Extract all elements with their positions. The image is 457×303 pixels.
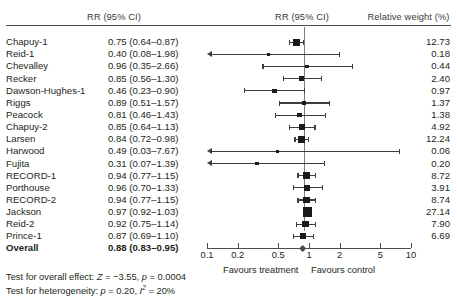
x-axis-tick-label: 1 — [294, 250, 324, 260]
header-rr-ci-text: RR (95% CI) — [0, 12, 228, 22]
study-name: Reid-1 — [6, 48, 34, 60]
study-relative-weight: 8.72 — [360, 170, 450, 182]
ci-cap-upper — [315, 222, 316, 227]
ci-cap-lower — [279, 101, 280, 106]
study-relative-weight: 2.40 — [360, 73, 450, 85]
favours-treatment-label: Favours treatment — [223, 265, 298, 275]
study-relative-weight: 27.14 — [360, 206, 450, 218]
study-rr-ci: 0.84 (0.72–0.98) — [108, 133, 178, 145]
test-overall-effect: Test for overall effect: Z = −3.55, p = … — [6, 272, 186, 282]
ci-cap-upper — [313, 234, 314, 239]
ci-cap-lower — [297, 173, 298, 178]
ci-cap-lower — [283, 76, 284, 81]
study-name: Reid-2 — [6, 218, 34, 230]
ci-cap-upper — [325, 113, 326, 118]
study-effect-marker — [299, 76, 304, 81]
study-effect-marker — [304, 185, 309, 190]
study-name: Harwood — [6, 145, 44, 157]
study-relative-weight: 0.97 — [360, 85, 450, 97]
ci-cap-upper — [324, 161, 325, 166]
ci-cap-upper — [303, 40, 304, 45]
study-relative-weight: 0.44 — [360, 60, 450, 72]
table-row: Chapuy-10.75 (0.64–0.87)12.73 — [0, 36, 457, 48]
table-row: Riggs0.89 (0.51–1.57)1.37 — [0, 97, 457, 109]
confidence-interval-line — [212, 54, 339, 55]
confidence-interval-line — [212, 163, 324, 164]
heterogeneity-prefix: Test for heterogeneity: — [6, 286, 101, 296]
ci-cap-lower — [275, 113, 276, 118]
ci-cap-upper — [321, 76, 322, 81]
ci-left-arrow-icon — [207, 148, 212, 154]
test-heterogeneity: Test for heterogeneity: p = 0.20, I2 = 2… — [6, 284, 175, 296]
x-axis-tick — [380, 243, 381, 248]
study-rr-ci: 0.96 (0.70–1.33) — [108, 182, 178, 194]
table-row: Porthouse0.96 (0.70–1.33)3.91 — [0, 182, 457, 194]
ci-cap-lower — [293, 234, 294, 239]
ci-cap-lower — [289, 40, 290, 45]
table-row: Chapuy-20.85 (0.64–1.13)4.92 — [0, 121, 457, 133]
study-name: Chapuy-2 — [6, 121, 48, 133]
ci-cap-upper — [399, 149, 400, 154]
confidence-interval-line — [212, 151, 399, 152]
study-relative-weight: 0.20 — [360, 158, 450, 170]
study-name: Larsen — [6, 133, 35, 145]
table-row: RECORD-10.94 (0.77–1.15)8.72 — [0, 170, 457, 182]
study-relative-weight: 6.69 — [360, 230, 450, 242]
ci-cap-lower — [262, 64, 263, 69]
study-relative-weight: 12.24 — [360, 133, 450, 145]
study-rr-ci: 0.89 (0.51–1.57) — [108, 97, 178, 109]
table-row: Reid-10.40 (0.08–1.98)0.18 — [0, 48, 457, 60]
study-relative-weight: 1.37 — [360, 97, 450, 109]
header-relative-weight: Relative weight (%) — [360, 12, 457, 22]
study-effect-marker — [303, 197, 310, 204]
table-row: Recker0.85 (0.56–1.30)2.40 — [0, 73, 457, 85]
x-axis-tick-label: 0.2 — [223, 250, 253, 260]
study-name: Dawson-Hughes-1 — [6, 85, 85, 97]
study-effect-marker — [299, 124, 305, 130]
study-rr-ci: 0.85 (0.56–1.30) — [108, 73, 178, 85]
study-relative-weight: 0.18 — [360, 48, 450, 60]
study-name: Chevalley — [6, 60, 48, 72]
table-row: Reid-20.92 (0.75–1.14)7.90 — [0, 218, 457, 230]
ci-cap-upper — [329, 101, 330, 106]
study-effect-marker — [293, 39, 300, 46]
study-relative-weight: 8.74 — [360, 194, 450, 206]
ci-cap-lower — [297, 198, 298, 203]
study-effect-marker — [303, 172, 310, 179]
ci-left-arrow-icon — [207, 160, 212, 166]
study-relative-weight: 12.73 — [360, 36, 450, 48]
study-name: Jackson — [6, 206, 41, 218]
study-effect-marker — [298, 136, 305, 143]
table-row: Dawson-Hughes-10.46 (0.23–0.90)0.97 — [0, 85, 457, 97]
study-rr-ci: 0.92 (0.75–1.14) — [108, 218, 178, 230]
table-row: Larsen0.84 (0.72–0.98)12.24 — [0, 133, 457, 145]
study-rr-ci: 0.94 (0.77–1.15) — [108, 170, 178, 182]
study-rr-ci: 0.40 (0.08–1.98) — [108, 48, 178, 60]
header-rule — [6, 25, 451, 26]
study-name: Fujita — [6, 158, 29, 170]
study-name: RECORD-1 — [6, 170, 56, 182]
study-effect-marker — [272, 89, 276, 93]
p-value: = 0.0004 — [147, 272, 186, 282]
i-squared-value: = 20% — [146, 286, 175, 296]
table-row: Harwood0.49 (0.03–7.67)0.06 — [0, 145, 457, 157]
study-rr-ci: 0.87 (0.69–1.10) — [108, 230, 178, 242]
z-value: = −3.55, — [102, 272, 141, 282]
ci-cap-lower — [296, 222, 297, 227]
table-row: Fujita0.31 (0.07–1.39)0.20 — [0, 158, 457, 170]
study-name: Riggs — [6, 97, 31, 109]
x-axis-line — [207, 248, 411, 249]
forest-plot-figure: RR (95% CI) RR (95% CI) Relative weight … — [0, 0, 457, 303]
ci-cap-upper — [315, 173, 316, 178]
study-rr-ci: 0.81 (0.46–1.43) — [108, 109, 178, 121]
table-row: RECORD-20.94 (0.77–1.15)8.74 — [0, 194, 457, 206]
x-axis-tick-label: 0.5 — [263, 250, 293, 260]
study-name: RECORD-2 — [6, 194, 56, 206]
study-effect-marker — [297, 113, 301, 117]
x-axis-tick — [309, 243, 310, 248]
study-effect-marker — [302, 101, 306, 105]
ci-cap-lower — [289, 125, 290, 130]
ci-cap-upper — [322, 185, 323, 190]
x-axis-tick — [340, 243, 341, 248]
ci-cap-upper — [352, 64, 353, 69]
